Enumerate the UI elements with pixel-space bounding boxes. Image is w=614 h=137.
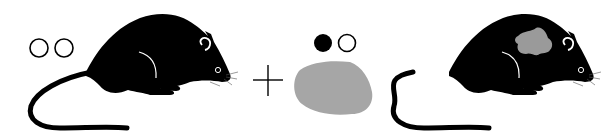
allele-open-circle-icon (30, 39, 48, 57)
wild-type-mouse-icon (30, 14, 238, 128)
chimeric-mouse-icon (393, 14, 601, 128)
allele-open-circle-icon (55, 39, 73, 57)
allele-open-circle-icon (339, 35, 356, 52)
allele-filled-circle-icon (314, 34, 332, 52)
allele-open-circles-left (30, 39, 73, 57)
allele-circles-es-cells (314, 34, 356, 52)
diagram-canvas: Chimeric mouse generation: wild-type mou… (0, 0, 614, 137)
plus-sign-icon (253, 65, 283, 96)
es-cell-mass-icon (294, 61, 372, 114)
